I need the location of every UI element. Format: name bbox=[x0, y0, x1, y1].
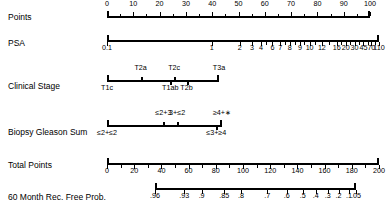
tick-label-points-8: 80 bbox=[313, 0, 321, 8]
row-label-psa: PSA bbox=[8, 38, 25, 48]
category-label-clinical-stage-3: T2c bbox=[168, 64, 180, 72]
category-label-biopsy-gleason-sum-3: ≤3+≥4 bbox=[206, 129, 226, 137]
tick-label-psa-6: 7 bbox=[278, 44, 282, 52]
category-marker-clinical-stage-3 bbox=[174, 77, 176, 81]
row-label-rec-free-prob: 60 Month Rec. Free Prob. bbox=[8, 192, 106, 202]
minor-tick-psa-8 bbox=[359, 42, 360, 45]
minor-tick-total-points-3 bbox=[202, 165, 203, 168]
tick-label-points-6: 60 bbox=[261, 0, 269, 8]
minor-tick-psa-6 bbox=[341, 42, 342, 45]
tick-label-total-points-9: 180 bbox=[346, 167, 358, 175]
tick-label-psa-3: 3 bbox=[250, 44, 254, 52]
minor-tick-psa-10 bbox=[375, 42, 376, 45]
tick-label-points-7: 70 bbox=[287, 0, 295, 8]
minor-tick-points-7 bbox=[304, 14, 305, 17]
tick-label-psa-2: 2 bbox=[238, 44, 242, 52]
tick-label-psa-12: 20 bbox=[342, 44, 350, 52]
category-label-clinical-stage-4: T2b bbox=[180, 84, 192, 92]
minor-tick-psa-9 bbox=[368, 42, 369, 45]
minor-tick-total-points-2 bbox=[175, 165, 176, 168]
minor-tick-total-points-0 bbox=[121, 165, 122, 168]
category-label-biopsy-gleason-sum-2: 3+≤2 bbox=[169, 109, 185, 117]
tick-label-points-10: 100 bbox=[364, 0, 376, 8]
tick-label-rec-free-prob-5: .7 bbox=[264, 192, 270, 200]
axis-endcap-left-psa bbox=[107, 35, 109, 40]
tick-points-8 bbox=[317, 12, 318, 16]
tick-label-psa-0: 0.1 bbox=[102, 44, 112, 52]
tick-label-total-points-5: 100 bbox=[237, 167, 249, 175]
tick-points-10 bbox=[370, 12, 371, 16]
tick-label-rec-free-prob-4: .8 bbox=[238, 192, 244, 200]
nomogram-figure: Points0102030405060708090100PSA0.1123467… bbox=[0, 0, 392, 207]
tick-points-7 bbox=[291, 12, 292, 16]
tick-label-psa-9: 10 bbox=[306, 44, 314, 52]
tick-label-points-4: 40 bbox=[208, 0, 216, 8]
row-label-total-points: Total Points bbox=[8, 160, 52, 170]
tick-label-points-0: 0 bbox=[105, 0, 109, 8]
axis-line-rec-free-prob bbox=[155, 188, 356, 190]
minor-tick-psa-3 bbox=[304, 42, 305, 45]
category-label-clinical-stage-0: T1c bbox=[101, 84, 113, 92]
axis-endcap-right-total-points bbox=[377, 158, 379, 163]
tick-label-total-points-0: 0 bbox=[105, 167, 109, 175]
minor-tick-total-points-4 bbox=[229, 165, 230, 168]
tick-label-points-9: 90 bbox=[340, 0, 348, 8]
axis-endcap-left-clinical-stage bbox=[107, 75, 109, 80]
minor-tick-total-points-6 bbox=[284, 165, 285, 168]
tick-label-points-2: 20 bbox=[156, 0, 164, 8]
tick-label-rec-free-prob-8: .4 bbox=[313, 192, 319, 200]
axis-line-psa bbox=[107, 40, 379, 42]
minor-tick-total-points-1 bbox=[148, 165, 149, 168]
row-label-biopsy-gleason-sum: Biopsy Gleason Sum bbox=[8, 127, 87, 137]
tick-label-psa-16: 110 bbox=[373, 44, 384, 52]
tick-label-psa-7: 8 bbox=[288, 44, 292, 52]
minor-tick-points-0 bbox=[120, 14, 121, 17]
tick-label-rec-free-prob-2: .9 bbox=[199, 192, 205, 200]
tick-label-rec-free-prob-7: .5 bbox=[300, 192, 306, 200]
axis-endcap-right-biopsy-gleason-sum bbox=[220, 120, 222, 125]
minor-tick-total-points-8 bbox=[338, 165, 339, 168]
minor-tick-psa-2 bbox=[295, 42, 296, 45]
minor-tick-psa-7 bbox=[350, 42, 351, 45]
category-label-clinical-stage-5: T3a bbox=[213, 64, 225, 72]
minor-tick-points-9 bbox=[357, 14, 358, 17]
minor-tick-points-6 bbox=[278, 14, 279, 17]
tick-label-points-3: 30 bbox=[182, 0, 190, 8]
axis-endcap-left-total-points bbox=[107, 158, 109, 163]
row-label-points: Points bbox=[8, 12, 32, 22]
category-label-clinical-stage-2: T1ab bbox=[162, 84, 178, 92]
axis-endcap-left-biopsy-gleason-sum bbox=[107, 120, 109, 125]
minor-tick-total-points-9 bbox=[365, 165, 366, 168]
tick-points-3 bbox=[186, 12, 187, 16]
tick-label-psa-10: 12 bbox=[318, 44, 326, 52]
axis-endcap-right-psa bbox=[377, 35, 379, 40]
category-marker-biopsy-gleason-sum-2 bbox=[177, 122, 179, 126]
tick-points-6 bbox=[265, 12, 266, 16]
axis-endcap-right-clinical-stage bbox=[217, 75, 219, 80]
tick-label-psa-14: 45 bbox=[359, 44, 367, 52]
tick-label-psa-5: 6 bbox=[270, 44, 274, 52]
axis-endcap-left-rec-free-prob bbox=[155, 183, 157, 188]
minor-tick-points-8 bbox=[331, 14, 332, 17]
tick-label-psa-4: 4 bbox=[259, 44, 263, 52]
minor-tick-psa-4 bbox=[315, 42, 316, 45]
minor-tick-points-3 bbox=[199, 14, 200, 17]
tick-points-2 bbox=[160, 12, 161, 16]
minor-tick-points-1 bbox=[146, 14, 147, 17]
axis-endcap-right-rec-free-prob bbox=[354, 183, 356, 188]
tick-label-psa-13: 30 bbox=[351, 44, 359, 52]
tick-points-4 bbox=[212, 12, 213, 16]
category-label-biopsy-gleason-sum-4: ≥4+∗ bbox=[213, 109, 231, 117]
tick-label-psa-1: 1 bbox=[210, 44, 214, 52]
tick-points-0 bbox=[107, 12, 108, 16]
tick-points-9 bbox=[344, 12, 345, 16]
row-label-clinical-stage: Clinical Stage bbox=[8, 81, 60, 91]
tick-label-rec-free-prob-0: .96 bbox=[150, 192, 160, 200]
category-marker-biopsy-gleason-sum-1 bbox=[163, 122, 165, 126]
tick-label-total-points-1: 20 bbox=[130, 167, 138, 175]
tick-label-total-points-7: 140 bbox=[291, 167, 303, 175]
tick-label-points-1: 10 bbox=[129, 0, 137, 8]
tick-label-total-points-3: 60 bbox=[185, 167, 193, 175]
tick-label-total-points-4: 80 bbox=[212, 167, 220, 175]
minor-tick-points-5 bbox=[252, 14, 253, 17]
